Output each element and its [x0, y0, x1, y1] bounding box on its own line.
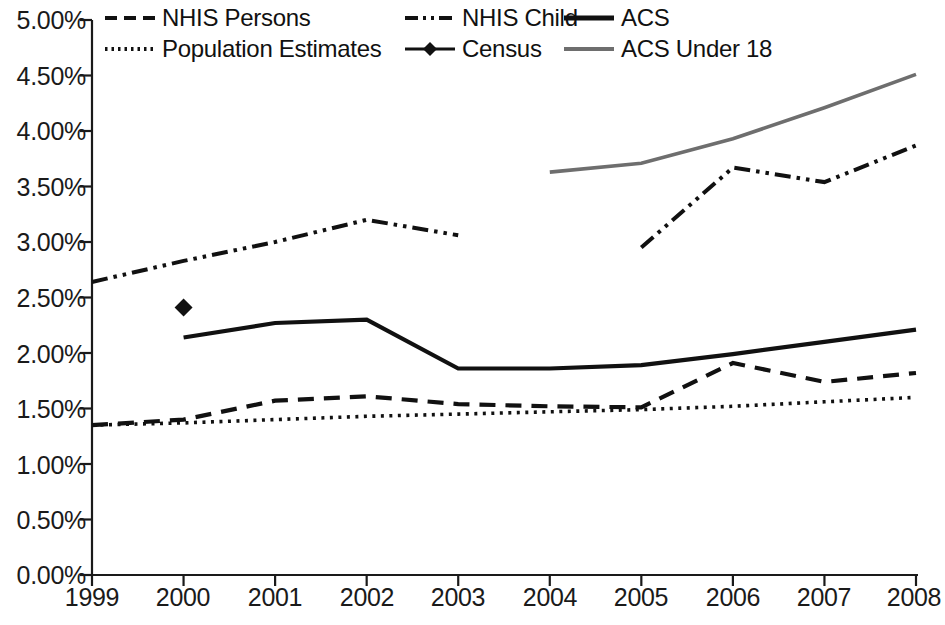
data-series-line-nhis-persons	[92, 363, 916, 425]
data-series-line-acs	[184, 320, 916, 369]
legend-item-population-estimates: Population Estimates	[104, 35, 381, 63]
legend-swatch-diamond-marker	[404, 41, 456, 57]
data-series-line-acs-under-18	[550, 74, 916, 172]
data-series-line-population-estimates	[92, 397, 916, 425]
legend-swatch-solid	[563, 10, 615, 26]
legend-label: NHIS Persons	[162, 6, 310, 30]
legend-label: NHIS Child	[462, 6, 578, 30]
legend: NHIS Persons NHIS Child ACS Population E…	[104, 4, 804, 66]
legend-label: ACS	[621, 6, 669, 30]
legend-swatch-dash-dot-dot	[404, 10, 456, 26]
legend-item-acs: ACS	[563, 4, 669, 32]
legend-label: Census	[462, 37, 542, 61]
x-tick-marks	[92, 575, 916, 586]
data-series-line-nhis-child	[641, 145, 916, 247]
legend-swatch-dotted	[104, 41, 156, 57]
y-tick-marks	[80, 20, 92, 575]
legend-swatch-dashed	[104, 10, 156, 26]
data-series-group	[92, 74, 916, 425]
data-series-line-nhis-child	[92, 220, 458, 282]
legend-item-nhis-persons: NHIS Persons	[104, 4, 310, 32]
legend-swatch-solid-gray	[563, 41, 615, 57]
data-point-marker-census	[175, 298, 193, 316]
legend-label: ACS Under 18	[621, 37, 772, 61]
legend-item-nhis-child: NHIS Child	[404, 4, 578, 32]
legend-item-census: Census	[404, 35, 542, 63]
legend-item-acs-under-18: ACS Under 18	[563, 35, 772, 63]
legend-label: Population Estimates	[162, 37, 381, 61]
axes	[80, 20, 918, 586]
